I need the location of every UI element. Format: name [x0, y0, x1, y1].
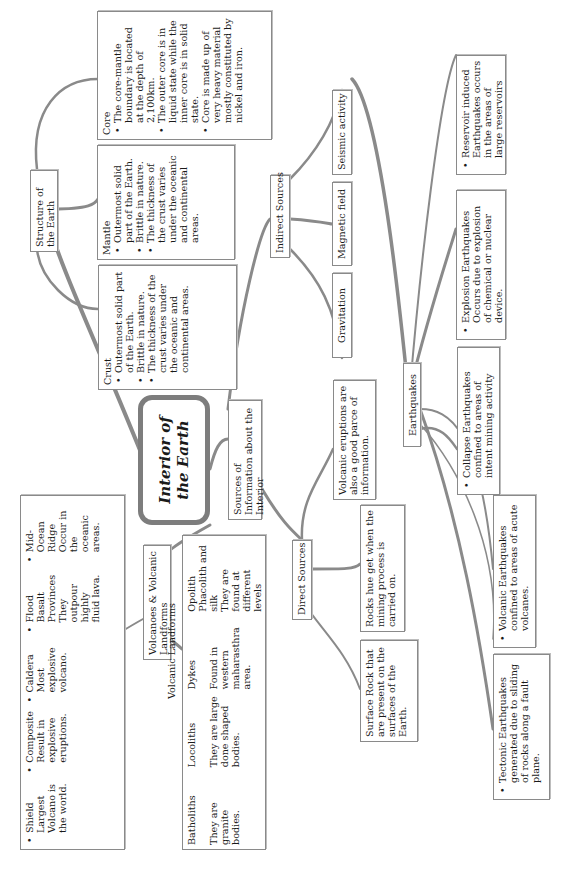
- landform: Batholiths They are granite bodies.: [186, 773, 263, 845]
- mantle-point: The thickness of the crust varies under …: [145, 150, 200, 243]
- volcanic-eruptions-box: Volcanic eruptions are also a good parce…: [333, 380, 376, 500]
- volcano-type: Mid-Ocean RidgeOccur in the oceanic area…: [24, 500, 101, 564]
- crust-point: The thickness of the crust varies under …: [146, 270, 190, 373]
- rocks-hue-box: Rocks hue get when the mining process is…: [360, 505, 405, 632]
- tectonic-earthquake-box: Tectonic Earthquakes generated due to sl…: [493, 654, 550, 800]
- volcanic-landforms-label: Volcanic Landforms: [166, 603, 177, 699]
- crust-point: Brittle in nature.: [135, 270, 146, 373]
- central-title-text: Interior of the Earth: [156, 400, 192, 520]
- core-point: The core-mantle boundary is located at t…: [112, 16, 156, 123]
- indirect-sources-label: Indirect Sources: [270, 175, 290, 258]
- gravitation-box: Gravitation: [332, 273, 352, 358]
- volcano-type: CompositeResult in explosive eruptions.: [24, 711, 101, 775]
- surface-rock-box: Surface Rock that are present on the sur…: [360, 640, 418, 742]
- core-point: The outer core is in liquid state while …: [156, 16, 200, 123]
- mantle-point: Brittle in nature.: [134, 150, 145, 243]
- crust-box: Crust Outermost solid part of the Earth.…: [98, 265, 237, 390]
- mantle-heading: Mantle: [101, 150, 112, 255]
- mantle-point: Outermost solid part of the Earth.: [112, 150, 134, 243]
- mind-map-canvas: Interior of the Earth Structure of the E…: [0, 0, 562, 869]
- core-point: Core is made up of very heavy material m…: [200, 16, 244, 123]
- landform: Opolith Phacolith and silk They are foun…: [186, 540, 263, 612]
- volcano-type: CalderaMost explosive volcano.: [24, 640, 101, 704]
- collapse-earthquake-box: Collapse Earthquakes confined to areas o…: [457, 347, 500, 495]
- magnetic-field-box: Magnetic field: [332, 182, 352, 266]
- seismic-activity-box: Seismic activity: [332, 90, 352, 175]
- volcanic-landforms-box: Batholiths They are granite bodies. Loco…: [182, 535, 266, 850]
- reservoir-earthquake-box: Reservoir induced Earthquakes occurs in …: [456, 55, 506, 175]
- volcano-types-box: ShieldLargest Volcano is the world. Comp…: [20, 495, 125, 850]
- core-heading: Core: [101, 16, 112, 135]
- sources-label: Sources of Information about the Interio…: [228, 400, 262, 520]
- structure-label: Structure of the Earth: [30, 170, 58, 252]
- mantle-box: Mantle Outermost solid part of the Earth…: [97, 145, 235, 260]
- explosion-earthquake-box: Explosion Earthquakes Occurs due to expl…: [456, 190, 506, 340]
- landform: Dykes Found in western maharasthra area.: [186, 618, 263, 690]
- volcano-type: Flood Basalt ProvincesThey outpour highl…: [24, 570, 101, 634]
- volcano-type: ShieldLargest Volcano is the world.: [24, 781, 101, 845]
- volcanic-earthquake-box: Volcanic Earthquakes confined to areas o…: [493, 495, 536, 648]
- core-box: Core The core-mantle boundary is located…: [97, 11, 272, 140]
- earthquakes-label: Earthquakes: [403, 363, 421, 447]
- central-title: Interior of the Earth: [138, 395, 210, 525]
- landform: Locoliths They are large done shaped bod…: [186, 696, 263, 768]
- crust-heading: Crust: [102, 270, 113, 385]
- direct-sources-label: Direct Sources: [292, 540, 312, 620]
- crust-point: Outermost solid part of the Earth.: [113, 270, 135, 373]
